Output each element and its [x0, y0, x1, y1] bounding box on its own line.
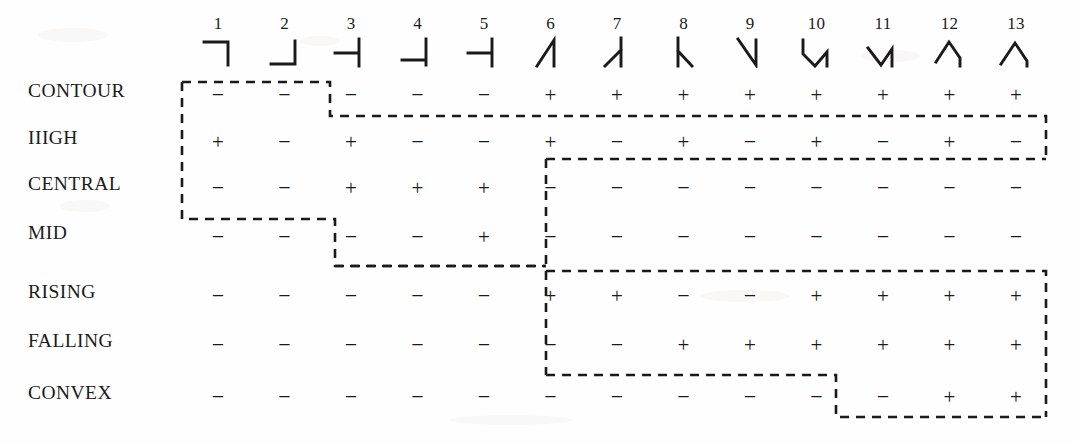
cell-mid-6: − — [519, 226, 583, 248]
cell-contour-8: + — [652, 84, 716, 106]
cell-central-6: − — [519, 177, 583, 199]
column-header-5: 5 — [452, 14, 516, 68]
column-header-4: 4 — [386, 14, 450, 68]
cell-central-7: − — [585, 177, 649, 199]
cell-rising-12: + — [918, 285, 982, 307]
cell-rising-7: + — [585, 285, 649, 307]
row-label-iiigh: IIIGH — [28, 127, 198, 149]
column-header-2: 2 — [253, 14, 317, 68]
column-header-6: 6 — [519, 14, 583, 68]
column-number-label: 1 — [186, 14, 250, 33]
cell-rising-5: − — [452, 285, 516, 307]
cell-falling-4: − — [386, 334, 450, 356]
cell-mid-9: − — [718, 226, 782, 248]
cell-iiigh-9: − — [718, 131, 782, 153]
cell-contour-3: − — [319, 84, 383, 106]
cell-contour-12: + — [918, 84, 982, 106]
row-label-falling: FALLING — [28, 330, 198, 352]
vertical-with-lower-right-branch-icon — [652, 34, 716, 68]
corner-left-down-icon — [186, 34, 250, 68]
cell-contour-2: − — [253, 84, 317, 106]
vee-with-left-and-right-verticals-icon — [785, 34, 849, 68]
row-label-central: CENTRAL — [28, 173, 198, 195]
cell-falling-13: + — [984, 334, 1048, 356]
cell-convex-1: − — [186, 386, 250, 408]
cell-central-2: − — [253, 177, 317, 199]
cell-central-13: − — [984, 177, 1048, 199]
cell-rising-6: + — [519, 285, 583, 307]
cell-falling-6: − — [519, 334, 583, 356]
row-label-contour: CONTOUR — [28, 80, 198, 102]
cell-convex-11: − — [851, 386, 915, 408]
cell-mid-3: − — [319, 226, 383, 248]
cell-rising-3: − — [319, 285, 383, 307]
column-header-1: 1 — [186, 14, 250, 68]
cell-contour-4: − — [386, 84, 450, 106]
cell-rising-9: − — [718, 285, 782, 307]
cell-iiigh-5: − — [452, 131, 516, 153]
cell-mid-12: − — [918, 226, 982, 248]
cell-rising-4: − — [386, 285, 450, 307]
cell-central-1: − — [186, 177, 250, 199]
column-number-label: 8 — [652, 14, 716, 33]
cell-mid-4: − — [386, 226, 450, 248]
vertical-with-lower-left-branch-icon — [585, 34, 649, 68]
column-header-13: 13 — [984, 14, 1048, 68]
column-header-12: 12 — [918, 14, 982, 68]
cell-iiigh-2: − — [253, 131, 317, 153]
column-header-8: 8 — [652, 14, 716, 68]
cell-convex-10: − — [785, 386, 849, 408]
column-header-7: 7 — [585, 14, 649, 68]
cell-contour-10: + — [785, 84, 849, 106]
row-label-rising: RISING — [28, 281, 198, 303]
cell-falling-9: + — [718, 334, 782, 356]
cell-iiigh-13: − — [984, 131, 1048, 153]
column-number-label: 12 — [918, 14, 982, 33]
cell-rising-10: + — [785, 285, 849, 307]
peak-with-right-vertical-icon — [918, 34, 982, 68]
wide-peak-with-right-vertical-icon — [984, 34, 1048, 68]
cell-mid-8: − — [652, 226, 716, 248]
cell-iiigh-11: − — [851, 131, 915, 153]
cell-falling-5: − — [452, 334, 516, 356]
cell-contour-6: + — [519, 84, 583, 106]
cell-convex-9: − — [718, 386, 782, 408]
cell-central-5: + — [452, 177, 516, 199]
cell-convex-3: − — [319, 386, 383, 408]
cell-convex-7: − — [585, 386, 649, 408]
diagonal-peak-right-vertical-icon — [519, 34, 583, 68]
cell-mid-2: − — [253, 226, 317, 248]
cell-iiigh-8: + — [652, 131, 716, 153]
column-number-label: 2 — [253, 14, 317, 33]
cell-contour-7: + — [585, 84, 649, 106]
cell-iiigh-4: − — [386, 131, 450, 153]
cell-falling-10: + — [785, 334, 849, 356]
cell-central-9: − — [718, 177, 782, 199]
cell-central-4: + — [386, 177, 450, 199]
cell-contour-1: − — [186, 84, 250, 106]
tee-left-icon — [319, 34, 383, 68]
cell-contour-9: + — [718, 84, 782, 106]
cell-central-10: − — [785, 177, 849, 199]
column-number-label: 3 — [319, 14, 383, 33]
column-header-9: 9 — [718, 14, 782, 68]
row-label-convex: CONVEX — [28, 382, 198, 404]
cell-contour-13: + — [984, 84, 1048, 106]
cell-mid-13: − — [984, 226, 1048, 248]
column-header-3: 3 — [319, 14, 383, 68]
column-number-label: 11 — [851, 14, 915, 33]
cell-convex-13: + — [984, 386, 1048, 408]
column-header-10: 10 — [785, 14, 849, 68]
cell-central-8: − — [652, 177, 716, 199]
column-header-11: 11 — [851, 14, 915, 68]
diagonal-valley-right-vertical-icon — [718, 34, 782, 68]
corner-left-up-icon — [253, 34, 317, 68]
cell-convex-6: − — [519, 386, 583, 408]
cell-falling-12: + — [918, 334, 982, 356]
cell-falling-11: + — [851, 334, 915, 356]
cell-mid-7: − — [585, 226, 649, 248]
matrix-grid: 12345678910111213CONTOUR−−−−−++++++++III… — [0, 0, 1075, 444]
column-number-label: 10 — [785, 14, 849, 33]
cell-central-3: + — [319, 177, 383, 199]
cell-falling-3: − — [319, 334, 383, 356]
